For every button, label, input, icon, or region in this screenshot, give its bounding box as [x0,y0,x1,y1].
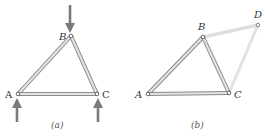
caption-a: (a) [51,120,64,130]
joint-b-b [201,35,205,39]
force-arrow-up-a [12,98,22,122]
member-b-bc [203,37,229,93]
label-a-a: A [4,89,13,100]
member-b-ab [148,37,203,94]
faded-member-b-cd [229,25,258,93]
joint-b-d [256,23,260,27]
label-a-b: B [58,31,66,42]
force-arrow-down-b [65,5,75,33]
faded-member-b-bd [203,25,258,37]
label-b-b: B [197,21,205,32]
figure-a: A B C (a) [4,5,110,130]
joint-a-b [69,34,73,38]
label-a-c: C [102,89,110,100]
label-b-c: C [234,89,242,100]
joint-a-c [95,92,99,96]
label-b-d: D [253,9,262,20]
member-a-ab [18,36,71,94]
caption-b: (b) [191,120,204,130]
joint-a-a [16,92,20,96]
label-b-a: A [134,89,142,100]
figure-b: A B C D (b) [134,9,262,130]
joint-b-c [227,91,231,95]
member-a-bc [71,36,97,94]
force-arrow-up-c [93,98,103,122]
joint-b-a [146,92,150,96]
truss-diagram: A B C (a) A B C D (b) [0,0,265,139]
member-b-ac [148,93,229,94]
